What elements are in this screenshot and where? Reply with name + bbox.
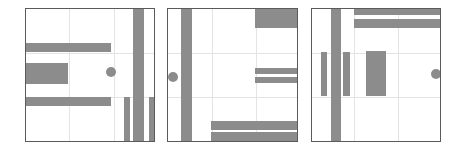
circle-marker [168, 72, 178, 82]
rect-block [211, 132, 298, 142]
rect-block [255, 68, 298, 74]
rect-block [133, 8, 144, 142]
rect-block [366, 51, 386, 96]
rect-block [124, 97, 130, 142]
circle-marker [106, 67, 116, 77]
rect-block [255, 77, 298, 83]
circle-marker [431, 69, 441, 79]
rect-block [255, 8, 298, 28]
panel-1 [25, 8, 155, 142]
rect-block [181, 8, 192, 142]
rect-block [211, 121, 298, 130]
gridline-vertical [69, 9, 70, 141]
panel-3 [311, 8, 441, 142]
gridline-vertical [398, 9, 399, 141]
rect-block [25, 63, 68, 84]
rect-block [321, 52, 327, 96]
rect-block [354, 8, 441, 15]
rect-block [343, 52, 350, 96]
rect-block [25, 43, 111, 52]
rect-block [331, 8, 341, 142]
rect-block [354, 19, 441, 28]
rect-block [149, 97, 155, 142]
gridline-vertical [354, 9, 355, 141]
panel-2 [167, 8, 298, 142]
rect-block [25, 97, 111, 106]
